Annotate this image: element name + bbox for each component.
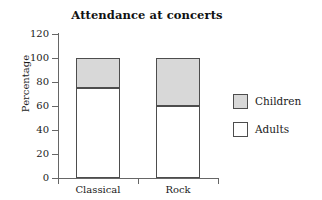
legend-item-adults: Adults <box>233 121 301 137</box>
chart-container: Attendance at concerts Percentage 020406… <box>0 0 322 200</box>
x-axis-label-rock: Rock <box>138 184 218 195</box>
y-tick-label-60: 60 <box>9 101 49 111</box>
bar-segment-classical-children <box>76 58 120 88</box>
x-axis-label-classical: Classical <box>58 184 138 195</box>
y-tick-40 <box>52 130 58 131</box>
y-tick-label-120: 120 <box>9 29 49 39</box>
y-tick-120 <box>52 34 58 35</box>
y-tick-100 <box>52 58 58 59</box>
legend-item-children: Children <box>233 93 301 109</box>
y-tick-label-100: 100 <box>9 53 49 63</box>
y-tick-60 <box>52 106 58 107</box>
legend-label-children: Children <box>255 95 301 107</box>
y-axis-line <box>58 33 59 179</box>
y-tick-label-40: 40 <box>9 125 49 135</box>
legend-swatch-adults <box>233 122 248 137</box>
legend-swatch-children <box>233 94 248 109</box>
legend-label-adults: Adults <box>255 123 289 135</box>
y-tick-label-20: 20 <box>9 149 49 159</box>
y-tick-label-0: 0 <box>9 173 49 183</box>
bar-segment-classical-adults <box>76 88 120 178</box>
chart-legend: ChildrenAdults <box>233 93 301 149</box>
y-tick-80 <box>52 82 58 83</box>
bar-segment-rock-children <box>156 58 200 106</box>
x-tick-2 <box>218 178 219 184</box>
y-tick-20 <box>52 154 58 155</box>
chart-title: Attendance at concerts <box>62 8 232 22</box>
bar-segment-rock-adults <box>156 106 200 178</box>
y-tick-label-80: 80 <box>9 77 49 87</box>
